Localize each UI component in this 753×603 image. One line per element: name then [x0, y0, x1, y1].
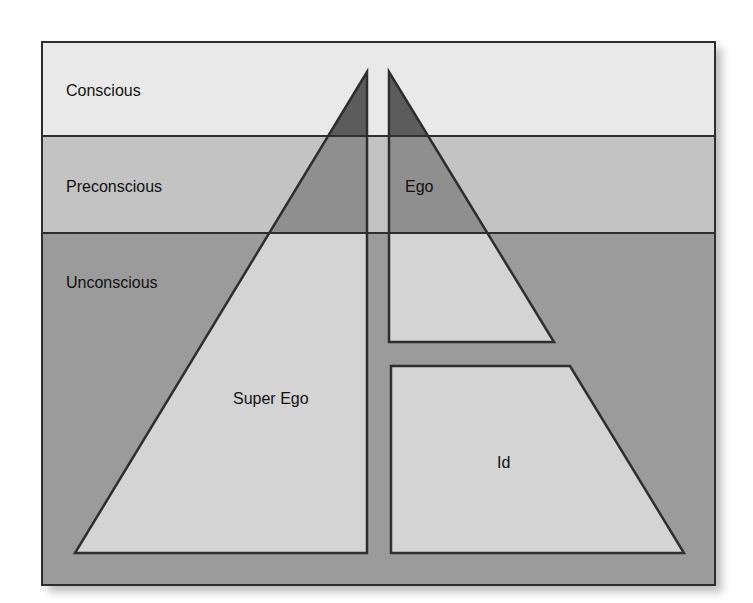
- structure-label-id: Id: [497, 454, 510, 471]
- band-conscious: [42, 42, 715, 136]
- level-label-conscious: Conscious: [66, 82, 141, 99]
- structure-label-super-ego: Super Ego: [233, 390, 309, 407]
- structure-label-ego: Ego: [405, 178, 434, 195]
- level-label-preconscious: Preconscious: [66, 178, 162, 195]
- psyche-diagram: Conscious Preconscious Unconscious Super…: [0, 0, 753, 603]
- level-label-unconscious: Unconscious: [66, 274, 158, 291]
